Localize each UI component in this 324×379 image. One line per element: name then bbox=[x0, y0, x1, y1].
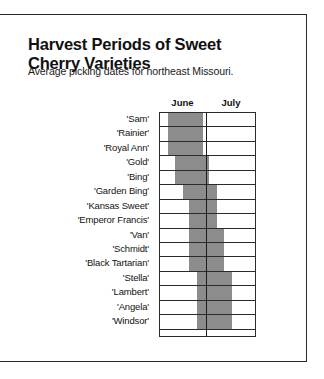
variety-label: 'Gold' bbox=[20, 155, 154, 169]
title-line-1: Harvest Periods of Sweet bbox=[28, 35, 278, 54]
variety-label: 'Royal Ann' bbox=[20, 141, 154, 155]
harvest-bar bbox=[168, 142, 203, 155]
variety-label: 'Garden Bing' bbox=[20, 184, 154, 198]
harvest-bar bbox=[168, 127, 203, 140]
month-label-june: June bbox=[159, 97, 206, 108]
month-label-july: July bbox=[206, 97, 256, 108]
harvest-bar bbox=[189, 200, 217, 213]
variety-label: 'Kansas Sweet' bbox=[20, 199, 154, 213]
chart-row bbox=[160, 257, 255, 271]
harvest-bar bbox=[168, 113, 203, 126]
variety-label: 'Rainier' bbox=[20, 126, 154, 140]
chart-row bbox=[160, 185, 255, 199]
chart-row bbox=[160, 200, 255, 214]
harvest-bar bbox=[197, 286, 232, 299]
chart-row bbox=[160, 301, 255, 315]
figure-frame: Harvest Periods of Sweet Cherry Varietie… bbox=[0, 14, 307, 362]
july-divider-line bbox=[206, 113, 208, 336]
chart-row bbox=[160, 214, 255, 228]
variety-label-column: 'Sam''Rainier''Royal Ann''Gold''Bing''Ga… bbox=[20, 112, 154, 337]
harvest-bar bbox=[197, 315, 232, 328]
harvest-bar bbox=[189, 214, 217, 227]
chart-row bbox=[160, 229, 255, 243]
chart-row bbox=[160, 113, 255, 127]
chart-row bbox=[160, 315, 255, 329]
chart-row bbox=[160, 142, 255, 156]
harvest-bar bbox=[175, 171, 209, 184]
chart-row bbox=[160, 127, 255, 141]
variety-label: 'Windsor' bbox=[20, 314, 154, 328]
variety-label: 'Stella' bbox=[20, 271, 154, 285]
variety-label: 'Van' bbox=[20, 228, 154, 242]
variety-label: 'Bing' bbox=[20, 170, 154, 184]
chart-row bbox=[160, 171, 255, 185]
variety-label: 'Sam' bbox=[20, 112, 154, 126]
harvest-bar bbox=[183, 185, 217, 198]
variety-label: 'Black Tartarian' bbox=[20, 256, 154, 270]
variety-label: 'Emperor Francis' bbox=[20, 213, 154, 227]
chart-subtitle: Average picking dates for northeast Miss… bbox=[28, 65, 293, 77]
variety-label: 'Lambert' bbox=[20, 285, 154, 299]
chart-row bbox=[160, 243, 255, 257]
chart-row bbox=[160, 156, 255, 170]
chart-row bbox=[160, 272, 255, 286]
harvest-bar bbox=[175, 156, 209, 169]
chart-plot-area bbox=[159, 112, 256, 337]
variety-label: 'Angela' bbox=[20, 300, 154, 314]
variety-label: 'Schmidt' bbox=[20, 242, 154, 256]
harvest-chart: JuneJuly bbox=[159, 97, 256, 337]
chart-row bbox=[160, 286, 255, 300]
month-header-row: JuneJuly bbox=[159, 97, 256, 111]
harvest-bar bbox=[197, 272, 232, 285]
harvest-bar bbox=[197, 301, 232, 314]
